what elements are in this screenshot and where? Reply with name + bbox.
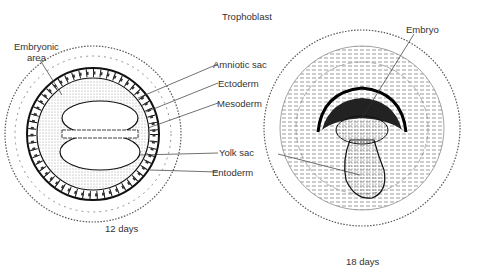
entoderm-label: Entoderm <box>212 167 253 178</box>
ectoderm-label: Ectoderm <box>218 78 259 89</box>
mesoderm-label: Mesoderm <box>217 98 262 109</box>
amniotic-sac-label: Amniotic sac <box>213 59 267 70</box>
yolk-sac-label: Yolk sac <box>219 147 254 158</box>
embryo-18-days <box>264 30 460 226</box>
blastocyst-12-days <box>5 46 181 222</box>
trophoblast-label: Trophoblast <box>222 11 272 22</box>
embryonic-area-label: Embryonic area <box>14 41 59 63</box>
embryo-label: Embryo <box>406 24 439 35</box>
caption-12-days: 12 days <box>105 223 138 234</box>
caption-18-days: 18 days <box>346 256 379 267</box>
embryo-development-diagram <box>0 0 489 279</box>
